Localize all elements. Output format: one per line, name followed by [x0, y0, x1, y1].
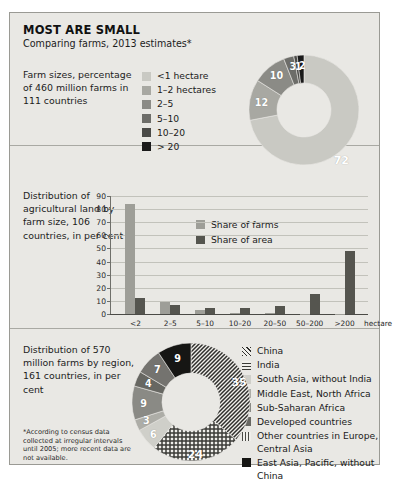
legend-label: Middle East, North Africa	[257, 388, 371, 401]
legend-swatch-icon	[142, 114, 151, 123]
farm-size-legend-item: > 20	[142, 141, 216, 154]
x-axis-tick-label: 50–200	[296, 319, 323, 328]
gridline	[110, 196, 368, 197]
gridline	[110, 235, 368, 236]
land-distribution-bar-chart: 0102030405060708090<22–55–1010–2020–5050…	[110, 196, 368, 326]
farm-size-legend-item: 10–20	[142, 127, 216, 140]
region-legend-item: India	[242, 359, 379, 372]
footnote: *According to census data collected at i…	[23, 428, 135, 462]
bar	[335, 314, 345, 315]
bar	[160, 302, 170, 314]
page-title: MOST ARE SMALL	[23, 23, 140, 37]
bar	[240, 308, 250, 314]
donut-slice	[191, 343, 250, 440]
farm-size-legend-item: 5–10	[142, 113, 216, 126]
bar	[125, 204, 135, 314]
farm-size-legend-item: <1 hectare	[142, 70, 216, 83]
bar	[265, 313, 275, 314]
x-axis-line	[110, 314, 368, 315]
legend-label: > 20	[157, 141, 179, 154]
farm-size-legend-item: 1–2 hectares	[142, 84, 216, 97]
bar	[170, 305, 180, 314]
region-legend-item: China	[242, 345, 379, 358]
bar	[310, 294, 320, 314]
y-axis-tick-label: 20	[90, 283, 106, 292]
bar	[230, 313, 240, 314]
legend-label: South Asia, without India	[257, 373, 372, 386]
y-axis-tick-label: 40	[90, 257, 106, 266]
farms-by-region-donut-chart: 3524639479	[132, 343, 250, 461]
x-axis-unit-label: hectare	[364, 319, 392, 328]
legend-label: Developed countries	[257, 416, 352, 429]
gridline	[110, 209, 368, 210]
gridline	[110, 262, 368, 263]
x-axis-tick-label: >200	[334, 319, 354, 328]
bar	[195, 310, 205, 314]
infographic-poster: MOST ARE SMALL Comparing farms, 2013 est…	[9, 12, 380, 465]
farm-sizes-donut-chart: 721210312	[249, 55, 359, 165]
x-axis-tick-label: <2	[130, 319, 141, 328]
x-axis-tick-label: 2–5	[164, 319, 177, 328]
legend-label: <1 hectare	[157, 70, 208, 83]
y-axis-tick-label: 50	[90, 244, 106, 253]
region-legend-item: Other countries in Europe, Central Asia	[242, 430, 379, 455]
bar	[345, 251, 355, 314]
farm-size-legend-item: 2–5	[142, 98, 216, 111]
gridline	[110, 301, 368, 302]
y-axis-tick-label: 70	[90, 218, 106, 227]
section3-description: Distribution of 570 million farms by reg…	[23, 343, 135, 396]
page-subtitle: Comparing farms, 2013 estimates*	[23, 38, 192, 49]
gridline	[110, 275, 368, 276]
y-axis-tick-label: 90	[90, 192, 106, 201]
legend-label: China	[257, 345, 283, 358]
region-legend-item: South Asia, without India	[242, 373, 379, 386]
region-legend-item: East Asia, Pacific, without China	[242, 457, 379, 482]
section1-description: Farm sizes, percentage of 460 million fa…	[23, 68, 135, 108]
legend-label: India	[257, 359, 280, 372]
legend-swatch-icon	[142, 72, 151, 81]
gridline	[110, 288, 368, 289]
x-axis-tick-label: 10–20	[229, 319, 252, 328]
y-axis-tick	[107, 314, 110, 315]
bar	[205, 308, 215, 314]
region-legend-item: Middle East, North Africa	[242, 388, 379, 401]
legend-label: Sub-Saharan Africa	[257, 402, 345, 415]
legend-label: Other countries in Europe, Central Asia	[257, 430, 378, 455]
legend-label: East Asia, Pacific, without China	[257, 457, 379, 482]
section-divider-2	[10, 328, 379, 329]
y-axis-tick-label: 10	[90, 296, 106, 305]
y-axis-line	[110, 196, 111, 314]
legend-swatch-icon	[142, 128, 151, 137]
y-axis-tick-label: 0	[90, 310, 106, 319]
y-axis-tick-label: 30	[90, 270, 106, 279]
bar	[135, 298, 145, 314]
legend-swatch-icon	[142, 142, 151, 151]
legend-label: 1–2 hectares	[157, 84, 216, 97]
x-axis-tick-label: 20–50	[264, 319, 287, 328]
gridline	[110, 222, 368, 223]
y-axis-tick-label: 80	[90, 205, 106, 214]
farm-sizes-legend: <1 hectare1–2 hectares2–55–1010–20> 20	[142, 70, 216, 155]
legend-swatch-icon	[142, 100, 151, 109]
x-axis-tick-label: 5–10	[196, 319, 214, 328]
bar	[300, 314, 310, 315]
regions-legend: ChinaIndiaSouth Asia, without IndiaMiddl…	[242, 345, 379, 484]
bar	[275, 306, 285, 314]
region-legend-item: Developed countries	[242, 416, 379, 429]
region-legend-item: Sub-Saharan Africa	[242, 402, 379, 415]
legend-label: 5–10	[157, 113, 179, 126]
legend-label: 10–20	[157, 127, 185, 140]
legend-swatch-icon	[142, 86, 151, 95]
gridline	[110, 248, 368, 249]
y-axis-tick-label: 60	[90, 231, 106, 240]
legend-label: 2–5	[157, 98, 173, 111]
